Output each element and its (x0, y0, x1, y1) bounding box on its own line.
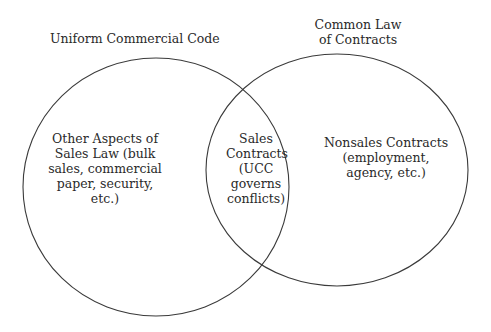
intersection-line: (UCC (226, 161, 286, 176)
ucc-title: Uniform Commercial Code (50, 31, 220, 46)
common-law-region-line: (employment, (316, 150, 456, 165)
ucc-region-line: Sales Law (bulk (40, 146, 170, 161)
ucc-region-line: etc.) (40, 191, 170, 206)
common-law-region-text: Nonsales Contracts (employment, agency, … (316, 135, 456, 180)
common-law-title-line-1: Common Law (308, 17, 408, 32)
ucc-region-text: Other Aspects of Sales Law (bulk sales, … (40, 131, 170, 206)
ucc-region-line: paper, security, (40, 176, 170, 191)
intersection-line: governs (226, 176, 286, 191)
ucc-region-line: sales, commercial (40, 161, 170, 176)
common-law-title: Common Law of Contracts (308, 17, 408, 47)
intersection-line: Contracts (226, 146, 286, 161)
common-law-region-line: Nonsales Contracts (316, 135, 456, 150)
ucc-region-line: Other Aspects of (40, 131, 170, 146)
intersection-text: Sales Contracts (UCC governs conflicts) (226, 131, 286, 206)
common-law-title-line-2: of Contracts (308, 32, 408, 47)
common-law-region-line: agency, etc.) (316, 165, 456, 180)
intersection-line: conflicts) (226, 191, 286, 206)
intersection-line: Sales (226, 131, 286, 146)
